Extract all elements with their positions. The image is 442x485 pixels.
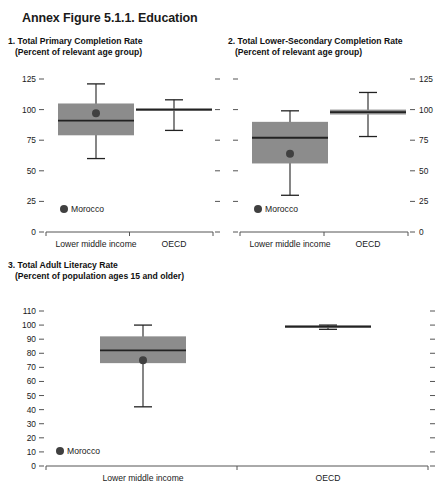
box-group — [136, 100, 212, 131]
y-tick-label: 90 — [27, 334, 37, 344]
panel-1-title-main: 1. Total Primary Completion Rate — [8, 36, 143, 46]
y-tick-label: 100 — [22, 320, 36, 330]
y-tick-label: 0 — [31, 461, 36, 471]
panel-2-title-sub: (Percent of relevant age group) — [228, 47, 442, 58]
box-group — [100, 325, 186, 407]
legend-label: Morocco — [67, 446, 100, 456]
panel-3-title-main: 3. Total Adult Literacy Rate — [8, 260, 118, 270]
box-iqr — [58, 103, 134, 135]
y-tick-label: 70 — [27, 362, 37, 372]
panel-total-primary-completion-rate: 1. Total Primary Completion Rate (Percen… — [8, 36, 223, 257]
legend-marker-icon — [56, 447, 64, 455]
legend-marker-icon — [254, 205, 262, 213]
x-category-label: OECD — [356, 239, 381, 249]
country-marker-point — [92, 109, 100, 117]
y-tick-label: 50 — [27, 391, 37, 401]
panel-3-boxplot: 0102030405060708090100110Lower middle in… — [8, 281, 438, 485]
x-category-label: Lower middle income — [249, 239, 330, 249]
y-tick-label: 20 — [27, 433, 37, 443]
legend-marker-icon — [60, 205, 68, 213]
y-tick-label: 75 — [419, 135, 429, 145]
x-category-label: OECD — [162, 239, 187, 249]
x-category-label: Lower middle income — [102, 473, 183, 483]
y-tick-label: 125 — [419, 74, 433, 84]
panel-1-title-sub: (Percent of relevant age group) — [8, 47, 223, 58]
y-tick-label: 60 — [27, 376, 37, 386]
box-group — [58, 84, 134, 159]
y-tick-label: 25 — [419, 196, 429, 206]
y-tick-label: 30 — [27, 419, 37, 429]
y-tick-label: 25 — [27, 196, 37, 206]
figure-title: Annex Figure 5.1.1. Education — [22, 11, 198, 25]
y-tick-label: 100 — [22, 105, 36, 115]
y-tick-label: 0 — [419, 227, 424, 237]
country-marker-point — [286, 150, 294, 158]
y-tick-label: 10 — [27, 447, 37, 457]
y-tick-label: 0 — [31, 227, 36, 237]
legend-label: Morocco — [71, 204, 104, 214]
panel-1-boxplot: 0255075100125Lower middle incomeOECDMoro… — [8, 57, 223, 257]
y-tick-label: 40 — [27, 405, 37, 415]
box-group — [330, 92, 406, 136]
panel-2-boxplot: 0255075100125Lower middle incomeOECDMoro… — [228, 57, 442, 257]
y-tick-label: 50 — [419, 166, 429, 176]
x-category-label: OECD — [316, 473, 341, 483]
panel-2-title: 2. Total Lower-Secondary Completion Rate… — [228, 36, 442, 57]
y-tick-label: 100 — [419, 105, 433, 115]
panel-2-title-main: 2. Total Lower-Secondary Completion Rate — [228, 36, 403, 46]
y-tick-label: 125 — [22, 74, 36, 84]
country-marker-point — [139, 356, 147, 364]
panel-total-adult-literacy-rate: 3. Total Adult Literacy Rate (Percent of… — [8, 260, 438, 485]
y-tick-label: 50 — [27, 166, 37, 176]
panel-1-title: 1. Total Primary Completion Rate (Percen… — [8, 36, 223, 57]
panel-3-title-sub: (Percent of population ages 15 and older… — [8, 271, 438, 282]
y-tick-label: 75 — [27, 135, 37, 145]
box-group — [285, 325, 371, 329]
y-tick-label: 80 — [27, 348, 37, 358]
x-category-label: Lower middle income — [55, 239, 136, 249]
legend-label: Morocco — [265, 204, 298, 214]
panel-total-lower-secondary-completion-rate: 2. Total Lower-Secondary Completion Rate… — [228, 36, 442, 257]
panel-3-title: 3. Total Adult Literacy Rate (Percent of… — [8, 260, 438, 281]
y-tick-label: 110 — [23, 306, 37, 316]
